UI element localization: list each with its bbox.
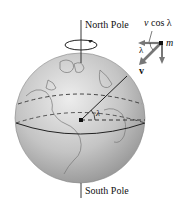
cos-lambda-text: cos λ [148, 17, 171, 28]
v-cos-lambda-label: v cos λ [144, 18, 172, 28]
mass-label: m [166, 38, 173, 48]
globe-diagram [0, 0, 186, 210]
lambda-small-label: λ [139, 46, 143, 55]
velocity-label: v [139, 66, 144, 76]
south-pole-label: South Pole [85, 186, 129, 196]
center-point [79, 118, 83, 122]
lambda-center-label: λ [96, 109, 100, 118]
north-pole-label: North Pole [85, 20, 129, 30]
globe [15, 53, 145, 183]
